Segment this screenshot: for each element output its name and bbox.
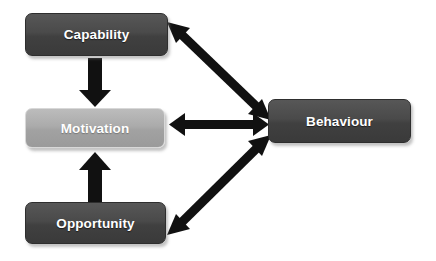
node-motivation[interactable]: Motivation bbox=[25, 108, 165, 148]
node-motivation-label: Motivation bbox=[61, 121, 130, 136]
node-capability[interactable]: Capability bbox=[25, 13, 168, 56]
node-opportunity[interactable]: Opportunity bbox=[25, 202, 166, 244]
node-behaviour-label: Behaviour bbox=[306, 114, 373, 129]
node-capability-label: Capability bbox=[64, 27, 130, 42]
connector-capability-to-motivation bbox=[79, 58, 111, 107]
node-opportunity-label: Opportunity bbox=[56, 216, 134, 231]
diagram-canvas: Capability Motivation Opportunity Behavi… bbox=[0, 0, 436, 261]
connector-opportunity-to-motivation bbox=[79, 152, 111, 202]
connector-opportunity-behaviour bbox=[167, 135, 271, 235]
connector-motivation-behaviour bbox=[169, 113, 269, 136]
node-behaviour[interactable]: Behaviour bbox=[268, 99, 411, 143]
connector-capability-behaviour bbox=[167, 22, 271, 120]
